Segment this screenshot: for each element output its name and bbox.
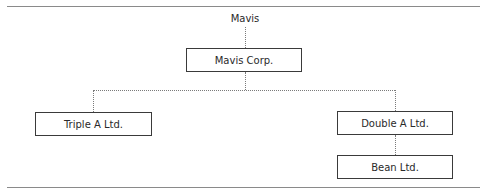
node-double-a: Double A Ltd.	[337, 111, 453, 135]
connector-root-to-mavis-corp	[245, 27, 246, 48]
bottom-divider	[7, 187, 480, 188]
node-mavis-corp: Mavis Corp.	[186, 48, 302, 72]
node-triple-a: Triple A Ltd.	[35, 112, 152, 136]
connector-to-double-a	[395, 90, 396, 111]
node-label: Bean Ltd.	[371, 162, 419, 173]
root-label: Mavis	[215, 13, 275, 24]
connector-mavis-corp-down	[245, 72, 246, 90]
node-bean: Bean Ltd.	[337, 155, 453, 179]
node-label: Mavis Corp.	[215, 55, 274, 66]
connector-to-triple-a	[93, 90, 94, 112]
top-divider	[7, 6, 480, 7]
connector-double-a-to-bean	[395, 135, 396, 155]
connector-horizontal-branch	[93, 90, 395, 91]
node-label: Double A Ltd.	[361, 118, 429, 129]
node-label: Triple A Ltd.	[64, 119, 123, 130]
